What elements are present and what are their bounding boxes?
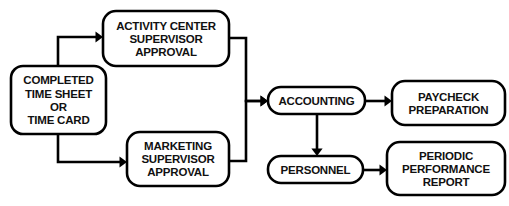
edge-source-to-marketing (58, 134, 127, 168)
node-label-line: APPROVAL (147, 166, 209, 178)
node-accounting[interactable]: ACCOUNTING (268, 87, 365, 114)
node-label-line: PERSONNEL (281, 164, 351, 176)
node-label-line: APPROVAL (135, 46, 197, 58)
node-label-line: ACCOUNTING (279, 95, 355, 107)
node-completed-time-sheet-or-time-card[interactable]: COMPLETEDTIME SHEETORTIME CARD (11, 66, 106, 134)
edge-marketing-to-accounting (229, 95, 268, 161)
node-label-line: ACTIVITY CENTER (116, 20, 217, 32)
node-label-line: PAYCHECK (418, 91, 480, 103)
node-periodic-performance-report[interactable]: PERIODICPERFORMANCEREPORT (387, 142, 505, 195)
node-label-line: PERFORMANCE (402, 163, 490, 175)
node-label-line: PERIODIC (419, 150, 473, 162)
node-layer: COMPLETEDTIME SHEETORTIME CARDACTIVITY C… (11, 11, 505, 195)
node-paycheck-preparation[interactable]: PAYCHECKPREPARATION (392, 81, 505, 125)
node-marketing-supervisor-approval[interactable]: MARKETINGSUPERVISORAPPROVAL (127, 132, 229, 186)
node-activity-center-supervisor-approval[interactable]: ACTIVITY CENTERSUPERVISORAPPROVAL (103, 11, 229, 66)
node-label-line: SUPERVISOR (129, 33, 203, 45)
flowchart-svg: COMPLETEDTIME SHEETORTIME CARDACTIVITY C… (0, 0, 509, 206)
node-label-line: MARKETING (144, 140, 212, 152)
node-label-line: REPORT (423, 176, 470, 188)
flowchart-canvas: COMPLETEDTIME SHEETORTIME CARDACTIVITY C… (0, 0, 509, 206)
edge-accounting-to-paycheck (365, 95, 392, 106)
node-label-line: OR (50, 101, 68, 113)
edge-accounting-to-personnel (311, 114, 322, 156)
node-label-line: TIME SHEET (25, 88, 92, 100)
edge-source-to-activity (58, 31, 103, 66)
node-label-line: COMPLETED (23, 74, 93, 86)
edge-activity-to-accounting (229, 38, 268, 107)
edge-personnel-to-report (363, 164, 387, 175)
node-label-line: PREPARATION (409, 104, 489, 116)
node-label-line: TIME CARD (27, 114, 89, 126)
node-personnel[interactable]: PERSONNEL (268, 156, 363, 183)
node-label-line: SUPERVISOR (141, 153, 215, 165)
